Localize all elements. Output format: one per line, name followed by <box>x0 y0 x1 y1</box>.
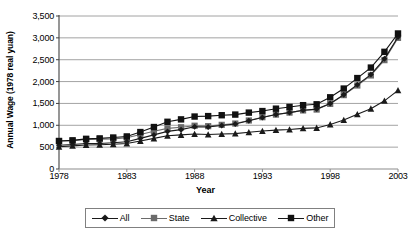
square-marker <box>69 137 75 143</box>
x-tick-label: 1983 <box>117 171 136 181</box>
triangle-marker <box>83 142 90 148</box>
square-marker <box>273 105 279 111</box>
triangle-marker <box>191 131 198 137</box>
diamond-marker <box>178 127 184 133</box>
square-marker <box>164 119 170 125</box>
legend-line-other <box>278 213 304 223</box>
square-marker <box>219 112 225 118</box>
legend-item-all: All <box>92 213 130 223</box>
legend-label-collective: Collective <box>229 213 267 223</box>
square-marker <box>395 35 401 41</box>
y-tick-label: 1,500 <box>32 98 54 108</box>
diamond-marker <box>287 110 293 116</box>
square-marker <box>151 124 157 130</box>
square-marker <box>137 131 143 137</box>
chart-legend: All State Collective Ot <box>85 208 335 228</box>
diamond-marker <box>246 118 252 124</box>
x-tick-label: 1993 <box>253 171 272 181</box>
square-marker <box>273 111 279 117</box>
triangle-marker <box>286 126 293 132</box>
square-marker <box>341 92 347 98</box>
square-marker <box>110 134 116 140</box>
square-marker <box>205 123 211 129</box>
square-marker <box>314 106 320 112</box>
x-tick-label: 2003 <box>388 171 407 181</box>
triangle-marker <box>395 87 402 93</box>
y-tick-label: 500 <box>40 142 54 152</box>
diamond-marker <box>205 124 211 130</box>
square-marker <box>124 135 130 141</box>
plot-area <box>0 0 411 238</box>
triangle-marker <box>96 141 103 147</box>
triangle-marker <box>164 132 171 138</box>
triangle-marker <box>300 125 307 131</box>
square-marker <box>178 124 184 130</box>
square-marker <box>110 136 116 142</box>
square-marker <box>178 116 184 122</box>
square-marker <box>354 82 360 88</box>
square-marker <box>69 137 75 143</box>
square-marker <box>124 133 130 139</box>
triangle-marker <box>368 105 375 111</box>
square-marker <box>259 114 265 120</box>
square-marker <box>300 107 306 113</box>
square-marker <box>97 136 103 142</box>
x-tick-label: 1998 <box>321 171 340 181</box>
square-marker <box>341 85 347 91</box>
x-axis-title: Year <box>0 185 411 195</box>
diamond-marker <box>56 142 62 148</box>
y-tick-label: 3,500 <box>32 11 54 21</box>
square-marker <box>300 102 306 108</box>
diamond-marker <box>314 106 320 112</box>
square-marker <box>286 104 292 110</box>
diamond-marker <box>327 100 333 106</box>
diamond-marker <box>83 140 89 146</box>
diamond-marker <box>70 142 76 148</box>
legend-line-all <box>92 213 118 223</box>
square-marker <box>368 72 374 78</box>
triangle-marker <box>340 117 347 123</box>
triangle-marker <box>327 121 334 127</box>
diamond-marker <box>381 56 387 62</box>
y-tick-label: 2,500 <box>32 55 54 65</box>
square-icon <box>150 214 158 222</box>
square-marker <box>192 123 198 129</box>
square-marker <box>83 136 89 142</box>
diamond-marker <box>273 112 279 118</box>
diamond-icon <box>101 214 109 222</box>
diamond-marker <box>124 139 130 145</box>
diamond-marker <box>259 114 265 120</box>
triangle-marker <box>259 128 266 134</box>
square-marker <box>368 64 374 70</box>
square-marker <box>56 138 62 144</box>
y-axis-tick-labels: 05001,0001,5002,0002,5003,0003,500 <box>16 0 54 180</box>
y-axis-title-text: Annual Wage (1978 real yuan) <box>5 31 15 148</box>
triangle-marker <box>110 141 117 147</box>
diamond-marker <box>300 107 306 113</box>
x-axis-tick-labels: 197819831988199319982003 <box>0 171 411 185</box>
legend-item-collective: Collective <box>201 213 267 223</box>
square-marker <box>137 129 143 135</box>
triangle-marker <box>56 143 63 149</box>
y-tick-label: 3,000 <box>32 33 54 43</box>
square-marker <box>205 113 211 119</box>
diamond-marker <box>151 132 157 138</box>
triangle-marker <box>69 143 76 149</box>
legend-label-all: All <box>120 213 130 223</box>
square-marker <box>246 117 252 123</box>
y-tick-label: 1,000 <box>32 120 54 130</box>
diamond-marker <box>192 124 198 130</box>
diamond-marker <box>219 123 225 129</box>
triangle-marker <box>246 129 253 135</box>
diamond-marker <box>395 34 401 40</box>
square-marker <box>354 75 360 81</box>
diamond-marker <box>368 72 374 78</box>
square-marker <box>246 109 252 115</box>
triangle-marker <box>151 135 158 141</box>
triangle-marker <box>124 140 131 146</box>
triangle-marker <box>178 132 185 138</box>
diamond-marker <box>164 128 170 134</box>
triangle-marker <box>218 131 225 137</box>
diamond-marker <box>110 140 116 146</box>
legend-label-state: State <box>169 213 190 223</box>
